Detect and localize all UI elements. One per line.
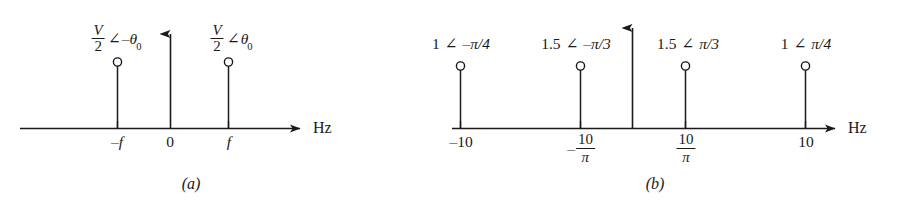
panel-a-magnitude-fraction-left: V 2 (92, 23, 105, 55)
panel-b-annotation-4: 1 ∠ π/4 (781, 36, 831, 52)
panel-a-tick-label-pos-f: f (227, 134, 231, 150)
panel-a-tick-label-neg-f: –f (111, 134, 123, 150)
panel-b-marker-1 (456, 62, 464, 70)
panel-b-annotation-3: 1.5 ∠ π/3 (657, 36, 719, 52)
panel-b-phase-4: π/4 (811, 35, 831, 52)
spectrum-figure: V 2 ∠–θ0 V 2 ∠θ0 –f 0 f Hz (a) 1 ∠ –π/4 … (0, 0, 909, 215)
angle-icon: ∠ (792, 36, 807, 52)
panel-b-marker-3 (681, 62, 689, 70)
panel-a-annotation-neg-f: V 2 ∠–θ0 (92, 24, 143, 56)
angle-icon: ∠ (107, 31, 122, 47)
panel-a-phase-subscript-right: 0 (247, 41, 252, 52)
panel-b-marker-2 (576, 62, 584, 70)
angle-icon: ∠ (680, 36, 695, 52)
panel-b-phase-2: –π/3 (583, 35, 611, 52)
panel-a-graph (20, 34, 300, 129)
panel-b-magnitude-3: 1.5 (657, 35, 676, 52)
panel-a-axis-unit: Hz (313, 120, 332, 136)
angle-icon: ∠ (226, 31, 241, 47)
panel-a-fraction-denominator-right: 2 (210, 39, 223, 55)
panel-b-phase-1: –π/4 (462, 35, 490, 52)
panel-b-tick-label-neg-10-over-pi: – 10 π (567, 132, 595, 165)
panel-b-tick-fraction-left: 10 π (576, 132, 595, 165)
panel-b-tick-label-neg-10: –10 (449, 134, 472, 150)
panel-b-caption: (b) (646, 176, 665, 192)
panel-b-tick-neg-sign: – (567, 141, 576, 157)
panel-b-tick-fraction-numerator-right: 10 (677, 132, 696, 149)
panel-b-annotation-2: 1.5 ∠ –π/3 (541, 36, 611, 52)
panel-b-tick-label-10: 10 (798, 134, 814, 150)
panel-a-fraction-numerator-left: V (92, 23, 105, 39)
panel-b-magnitude-1: 1 (432, 35, 440, 52)
panel-b-magnitude-2: 1.5 (541, 35, 560, 52)
panel-a-magnitude-fraction-right: V 2 (210, 23, 223, 55)
angle-icon: ∠ (564, 36, 579, 52)
panel-b-axis-unit: Hz (848, 120, 867, 136)
panel-a-phase-left: –θ (122, 30, 137, 47)
angle-icon: ∠ (444, 36, 459, 52)
panel-b-graph (452, 28, 835, 129)
panel-a-annotation-pos-f: V 2 ∠θ0 (210, 24, 253, 56)
panel-a-phase-subscript-left: 0 (136, 41, 141, 52)
panel-a-fraction-denominator-left: 2 (92, 39, 105, 55)
panel-b-phase-3: π/3 (699, 35, 719, 52)
panel-b-magnitude-4: 1 (781, 35, 789, 52)
panel-a-caption: (a) (182, 176, 201, 192)
panel-a-tick-label-zero: 0 (166, 134, 174, 150)
panel-b-annotation-1: 1 ∠ –π/4 (432, 36, 490, 52)
panel-b-tick-fraction-right: 10 π (677, 132, 696, 165)
panel-a-marker-neg-f (113, 58, 121, 66)
panel-a-marker-pos-f (224, 58, 232, 66)
panel-b-tick-fraction-denominator-left: π (576, 149, 595, 166)
panel-b-tick-fraction-denominator-right: π (677, 149, 696, 166)
panel-a-fraction-numerator-right: V (210, 23, 223, 39)
panel-b-marker-4 (801, 62, 809, 70)
panel-b-tick-label-10-over-pi: 10 π (677, 132, 696, 165)
panel-b-tick-fraction-numerator-left: 10 (576, 132, 595, 149)
